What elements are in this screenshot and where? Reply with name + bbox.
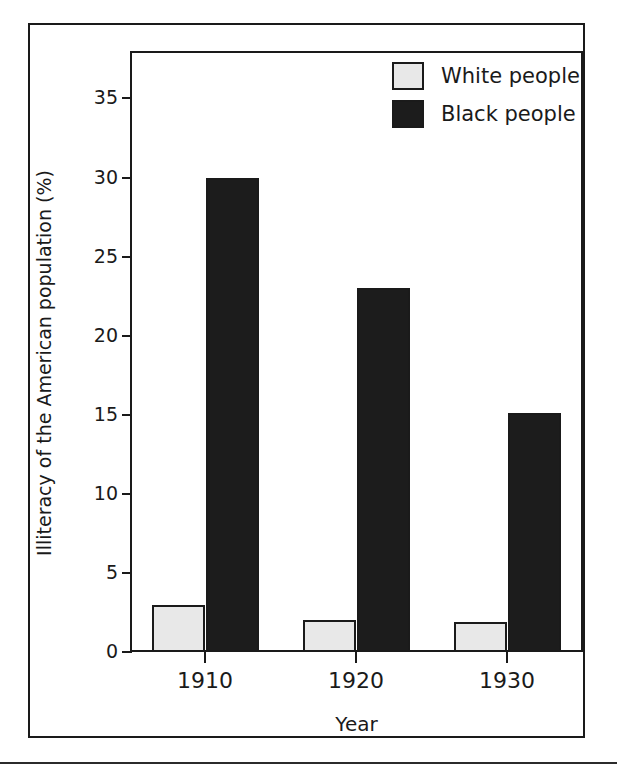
- y-axis-tick-label: 20: [58, 326, 118, 345]
- x-axis-tick: [506, 652, 508, 663]
- y-axis-tick: [122, 177, 132, 179]
- y-axis-tick-label: 5: [58, 563, 118, 582]
- legend-swatch-light-icon: [392, 62, 424, 90]
- y-axis-tick: [122, 97, 132, 99]
- y-axis-tick: [122, 572, 132, 574]
- y-axis-tick-label: 10: [58, 484, 118, 503]
- bar-1920-white-people: [303, 620, 356, 652]
- y-axis-tick-labels: 05101520253035: [48, 0, 118, 772]
- bar-1920-black-people: [357, 288, 410, 652]
- bar-1910-black-people: [206, 178, 259, 652]
- legend-label: Black people: [441, 102, 576, 126]
- y-axis-tick: [122, 335, 132, 337]
- x-axis-tick-label: 1910: [145, 668, 265, 693]
- y-axis-tick: [122, 651, 132, 653]
- y-axis-title: Illiteracy of the American population (%…: [33, 83, 55, 643]
- y-axis-tick-label: 30: [58, 168, 118, 187]
- y-axis-tick: [122, 414, 132, 416]
- x-axis-title: Year: [130, 712, 583, 736]
- y-axis-tick-label: 35: [58, 88, 118, 107]
- bar-chart: 05101520253035 Illiteracy of the America…: [0, 0, 617, 772]
- y-axis-tick-label: 0: [58, 642, 118, 661]
- y-axis-tick-label: 25: [58, 247, 118, 266]
- legend-swatch-dark-icon: [392, 100, 424, 128]
- legend-label: White people: [441, 64, 580, 88]
- bar-1930-black-people: [508, 413, 561, 652]
- y-axis-tick-label: 15: [58, 405, 118, 424]
- x-axis-tick: [355, 652, 357, 663]
- page-divider-rule: [0, 762, 617, 764]
- chart-legend: White peopleBlack people: [392, 62, 580, 138]
- y-axis-tick: [122, 256, 132, 258]
- bar-1910-white-people: [152, 605, 205, 652]
- x-axis-tick-label: 1930: [447, 668, 567, 693]
- legend-item-dark: Black people: [392, 100, 580, 128]
- x-axis-tick: [204, 652, 206, 663]
- y-axis-tick: [122, 493, 132, 495]
- legend-item-light: White people: [392, 62, 580, 90]
- bar-1930-white-people: [454, 622, 507, 652]
- x-axis-tick-label: 1920: [296, 668, 416, 693]
